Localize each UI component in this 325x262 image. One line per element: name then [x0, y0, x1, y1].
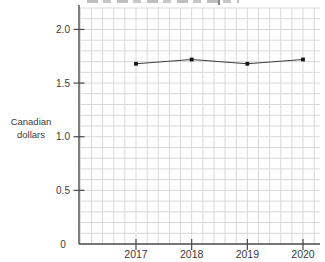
y-tick-label: 1.5	[56, 78, 70, 89]
line-chart-canvas: 2.01.51.00.502017201820192020	[0, 0, 325, 262]
axes	[79, 5, 320, 244]
x-tick-label: 2019	[236, 248, 260, 260]
y-tick-label: 0	[60, 239, 66, 250]
y-tick-label: 0.5	[56, 185, 70, 196]
x-tick-label: 2017	[124, 248, 148, 260]
chart-container: Canadian dollars 2.01.51.00.502017201820…	[0, 0, 325, 262]
data-point-marker	[301, 58, 305, 62]
y-tick-label: 2.0	[56, 24, 70, 35]
data-point-marker	[134, 62, 138, 66]
x-tick-label: 2020	[291, 248, 315, 260]
data-series	[134, 58, 305, 66]
data-point-marker	[190, 58, 194, 62]
tick-marks: 2.01.51.00.502017201820192020	[56, 24, 315, 260]
series-line	[136, 59, 303, 63]
y-tick-label: 1.0	[56, 131, 70, 142]
data-point-marker	[245, 62, 249, 66]
grid-lines	[79, 8, 320, 244]
x-tick-label: 2018	[180, 248, 204, 260]
